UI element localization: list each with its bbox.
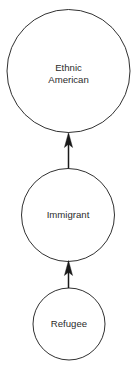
node-ethnic-american-label-line2: American [48, 74, 89, 85]
diagram-canvas: Ethnic American Immigrant Refugee [0, 0, 136, 373]
edge-refugee-to-immigrant [64, 261, 72, 289]
node-ethnic-american[interactable]: Ethnic American [7, 10, 130, 133]
node-ethnic-american-label-line1: Ethnic [55, 62, 82, 73]
node-refugee-label: Refugee [51, 318, 87, 329]
node-refugee[interactable]: Refugee [33, 288, 105, 360]
edge-immigrant-to-ethnic-american [64, 133, 72, 169]
node-immigrant[interactable]: Immigrant [22, 169, 115, 262]
node-immigrant-label: Immigrant [47, 209, 90, 220]
diagram-svg: Ethnic American Immigrant Refugee [0, 0, 136, 373]
